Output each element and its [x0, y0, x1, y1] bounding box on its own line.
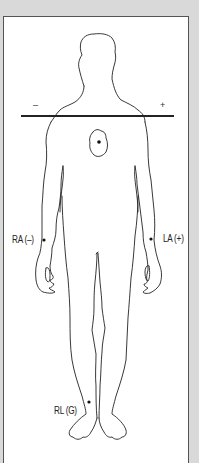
page: – + RA (–) LA (+) RL (G) — [0, 0, 199, 463]
body-outline-figure — [0, 0, 199, 463]
right-arm-outline — [36, 122, 63, 293]
head-outline — [79, 34, 145, 122]
positive-sign: + — [160, 101, 165, 110]
rl-electrode-label: RL (G) — [54, 406, 77, 416]
inner-leg-outline — [92, 253, 97, 418]
ra-electrode-label: RA (–) — [12, 235, 34, 245]
left-leg-outline — [99, 196, 138, 439]
left-arm-outline — [135, 122, 162, 293]
right-leg-outline — [62, 196, 97, 439]
negative-sign: – — [33, 101, 38, 110]
la-electrode-dot — [149, 237, 152, 240]
ra-electrode-dot — [42, 238, 45, 241]
heart-center-dot — [97, 140, 101, 144]
la-electrode-label: LA (+) — [163, 234, 184, 244]
rl-electrode-dot — [87, 400, 90, 403]
